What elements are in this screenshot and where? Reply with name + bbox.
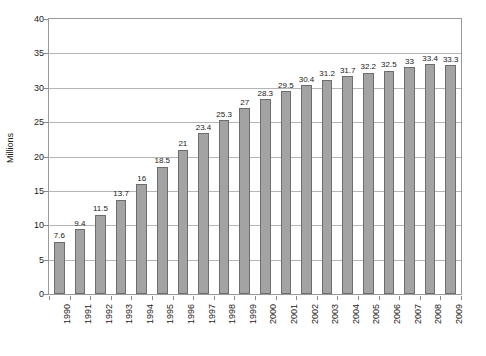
bar-group[interactable]: 33.4	[425, 19, 436, 294]
bar-group[interactable]: 11.5	[95, 19, 106, 294]
bar-value-label: 9.4	[74, 220, 85, 228]
bar-group[interactable]: 31.2	[322, 19, 333, 294]
x-axis-tick-label: 1995	[166, 304, 175, 344]
x-axis-tick-mark	[111, 296, 112, 300]
x-axis-tick-label: 2007	[414, 304, 423, 344]
bar[interactable]	[75, 229, 86, 294]
y-axis-tick-label: 25	[20, 118, 44, 127]
x-axis-tick-mark	[255, 296, 256, 300]
bar-group[interactable]: 30.4	[301, 19, 312, 294]
y-axis-tick-label: 20	[20, 152, 44, 161]
bars-layer: 7.69.411.513.71618.52123.425.32728.329.5…	[49, 19, 461, 294]
bar[interactable]	[95, 215, 106, 294]
y-axis-tick-label: 30	[20, 83, 44, 92]
x-axis-tick-mark	[276, 296, 277, 300]
x-axis-tick-labels: 1990199119921993199419951996199719981999…	[48, 296, 462, 354]
y-axis-tick-labels: 0510152025303540	[20, 0, 44, 296]
x-axis-tick-mark	[461, 296, 462, 300]
x-axis-tick-label: 2009	[455, 304, 464, 344]
x-axis-tick-mark	[337, 296, 338, 300]
bar[interactable]	[301, 85, 312, 294]
y-axis-tick-mark	[44, 260, 48, 261]
bar-value-label: 25.3	[216, 111, 232, 119]
bar-group[interactable]: 32.2	[363, 19, 374, 294]
bar[interactable]	[384, 71, 395, 294]
y-axis-tick-label: 10	[20, 221, 44, 230]
bar-value-label: 31.7	[340, 67, 356, 75]
bar-value-label: 7.6	[54, 232, 65, 240]
y-axis-tick-mark	[44, 88, 48, 89]
bar-group[interactable]: 16	[136, 19, 147, 294]
bar[interactable]	[425, 64, 436, 294]
bar[interactable]	[239, 108, 250, 294]
bar[interactable]	[198, 133, 209, 294]
x-axis-tick-label: 1998	[228, 304, 237, 344]
bar-value-label: 33.3	[443, 56, 459, 64]
bar[interactable]	[363, 73, 374, 294]
bar-value-label: 11.5	[93, 205, 108, 213]
bar-group[interactable]: 23.4	[198, 19, 209, 294]
x-axis-tick-label: 2006	[393, 304, 402, 344]
x-axis-tick-label: 1990	[63, 304, 72, 344]
bar-value-label: 33.4	[422, 55, 438, 63]
bar[interactable]	[445, 65, 456, 294]
bar[interactable]	[260, 99, 271, 294]
bar-group[interactable]: 25.3	[219, 19, 230, 294]
bar[interactable]	[404, 67, 415, 294]
bar-group[interactable]: 13.7	[116, 19, 127, 294]
x-axis-tick-mark	[440, 296, 441, 300]
bar-group[interactable]: 29.5	[281, 19, 292, 294]
x-axis-tick-label: 1994	[146, 304, 155, 344]
x-axis-tick-mark	[420, 296, 421, 300]
y-axis-tick-label: 40	[20, 15, 44, 24]
x-axis-tick-label: 2003	[331, 304, 340, 344]
bar-value-label: 31.2	[319, 70, 335, 78]
bar[interactable]	[342, 76, 353, 294]
bar-group[interactable]: 28.3	[260, 19, 271, 294]
bar-chart: Millions 0510152025303540 7.69.411.513.7…	[0, 0, 486, 356]
y-axis-tick-mark	[44, 19, 48, 20]
x-axis-tick-label: 1993	[125, 304, 134, 344]
y-axis-tick-label: 5	[20, 255, 44, 264]
x-axis-tick-mark	[214, 296, 215, 300]
y-axis-tick-mark	[44, 122, 48, 123]
y-axis-tick-mark	[44, 225, 48, 226]
x-axis-tick-label: 1991	[84, 304, 93, 344]
x-axis-tick-mark	[70, 296, 71, 300]
bar-value-label: 13.7	[113, 190, 129, 198]
bar-group[interactable]: 7.6	[54, 19, 65, 294]
bar-value-label: 23.4	[196, 124, 212, 132]
bar-group[interactable]: 31.7	[342, 19, 353, 294]
bar-group[interactable]: 21	[178, 19, 189, 294]
bar[interactable]	[281, 91, 292, 294]
y-axis-tick-label: 35	[20, 49, 44, 58]
plot-area: 7.69.411.513.71618.52123.425.32728.329.5…	[48, 18, 462, 295]
x-axis-tick-mark	[234, 296, 235, 300]
bar-group[interactable]: 33	[404, 19, 415, 294]
y-axis-tick-label: 15	[20, 186, 44, 195]
bar-group[interactable]: 32.5	[384, 19, 395, 294]
bar[interactable]	[219, 120, 230, 294]
y-axis-tick-label: 0	[20, 290, 44, 299]
x-axis-tick-mark	[379, 296, 380, 300]
bar-group[interactable]: 9.4	[75, 19, 86, 294]
bar[interactable]	[157, 167, 168, 294]
bar[interactable]	[178, 150, 189, 294]
bar[interactable]	[136, 184, 147, 294]
x-axis-tick-mark	[399, 296, 400, 300]
x-axis-tick-label: 1997	[208, 304, 217, 344]
bar-value-label: 21	[178, 140, 187, 148]
bar[interactable]	[116, 200, 127, 294]
bar[interactable]	[54, 242, 65, 294]
bar-group[interactable]: 27	[239, 19, 250, 294]
x-axis-tick-label: 2002	[311, 304, 320, 344]
x-axis-tick-label: 1999	[249, 304, 258, 344]
y-axis-title-text: Millions	[5, 133, 15, 163]
x-axis-tick-label: 2008	[434, 304, 443, 344]
bar-value-label: 33	[405, 58, 414, 66]
bar-group[interactable]: 33.3	[445, 19, 456, 294]
bar[interactable]	[322, 80, 333, 295]
bar-group[interactable]: 18.5	[157, 19, 168, 294]
x-axis-tick-mark	[317, 296, 318, 300]
x-axis-tick-mark	[49, 296, 50, 300]
